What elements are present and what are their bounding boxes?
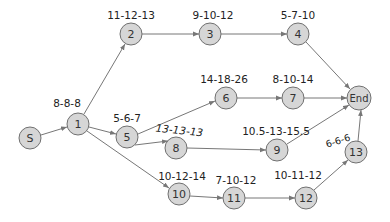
node-label: 6 — [223, 92, 230, 105]
node-label: 1 — [75, 118, 82, 131]
node-label: 13 — [349, 146, 363, 159]
node-label: S — [27, 132, 34, 145]
node-12: 12 — [295, 187, 317, 209]
estimate-label-3: 9-10-12 — [193, 9, 234, 21]
node-s: S — [19, 127, 41, 149]
project-network-diagram: S 1 2 3 4 5 6 7 8 End 9 10 11 12 13 8-8-… — [0, 0, 390, 222]
node-9: 9 — [266, 139, 288, 161]
node-5: 5 — [116, 126, 138, 148]
node-label: 3 — [207, 28, 214, 41]
node-7: 7 — [282, 87, 304, 109]
node-6: 6 — [215, 87, 237, 109]
node-label: 5 — [124, 131, 131, 144]
estimate-label-9: 10.5-13-15.5 — [242, 125, 310, 137]
estimate-label-7: 8-10-14 — [273, 73, 314, 85]
node-label: 2 — [128, 28, 135, 41]
estimate-label-2: 11-12-13 — [107, 9, 155, 21]
node-11: 11 — [223, 187, 245, 209]
edge-1-5 — [89, 127, 116, 134]
node-label: 12 — [299, 192, 313, 205]
estimate-label-5: 5-6-7 — [113, 112, 141, 124]
estimate-label-6: 14-18-26 — [200, 73, 248, 85]
node-4: 4 — [287, 23, 309, 45]
node-label: End — [349, 93, 368, 104]
node-8: 8 — [165, 137, 187, 159]
node-1: 1 — [67, 113, 89, 135]
node-label: 4 — [295, 28, 302, 41]
estimate-label-8: 13-13-13 — [155, 122, 204, 139]
node-end: End — [347, 86, 371, 110]
node-13: 13 — [345, 141, 367, 163]
edge-s-1 — [41, 127, 67, 135]
node-label: 7 — [290, 92, 297, 105]
estimate-label-4: 5-7-10 — [281, 9, 315, 21]
edge-8-9 — [187, 148, 266, 150]
edge-5-8 — [135, 141, 168, 145]
node-label: 11 — [227, 192, 241, 205]
edge-1-2 — [84, 44, 125, 114]
node-2: 2 — [120, 23, 142, 45]
estimate-label-11: 7-10-12 — [216, 174, 257, 186]
edge-10-11 — [190, 196, 223, 198]
node-label: 10 — [172, 188, 186, 201]
node-label: 8 — [173, 142, 180, 155]
estimate-label-1: 8-8-8 — [53, 97, 81, 109]
edge-13-end — [358, 110, 361, 141]
node-label: 9 — [274, 144, 281, 157]
estimate-label-12: 10-11-12 — [274, 169, 322, 181]
node-3: 3 — [199, 23, 221, 45]
node-10: 10 — [168, 183, 190, 205]
estimate-label-10: 10-12-14 — [158, 170, 206, 182]
